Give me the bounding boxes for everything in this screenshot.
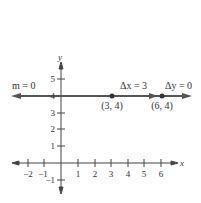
x-tick-label: 3 (109, 169, 114, 179)
y-axis (57, 62, 65, 194)
x-tick-label: −2 (23, 169, 33, 179)
delta-y-annotation: Δy = 0 (165, 80, 192, 91)
x-tick-label: 4 (126, 169, 131, 179)
y-tick-label: 2 (51, 124, 56, 134)
delta-x-arrow-icon (149, 93, 158, 99)
y-axis-up-arrow-icon (59, 62, 63, 69)
x-axis-right-arrow-icon (171, 161, 178, 165)
slope-annotation: m = 0 (12, 80, 35, 91)
horizontal-line (11, 93, 192, 99)
graph: y x −2 −1 1 2 3 4 5 6 5 4 3 2 1 −1 m = 0… (0, 0, 201, 203)
x-tick-labels: −2 −1 1 2 3 4 5 6 (23, 169, 164, 179)
line-right-arrow-icon (182, 93, 192, 99)
point-3-4 (110, 94, 115, 99)
x-tick-label: 2 (93, 169, 98, 179)
delta-x-annotation: Δx = 3 (120, 80, 147, 91)
x-axis-label: x (179, 158, 184, 168)
point-label-3-4: (3, 4) (101, 100, 123, 112)
point-label-6-4: (6, 4) (151, 100, 173, 112)
x-axis (12, 159, 178, 167)
y-tick-label: −1 (45, 175, 55, 185)
point-6-4 (160, 94, 165, 99)
x-tick-label: 1 (76, 169, 81, 179)
y-axis-label: y (57, 52, 62, 62)
x-tick-label: 6 (159, 169, 164, 179)
y-tick-label: 4 (51, 91, 56, 101)
line-left-arrow-icon (11, 93, 21, 99)
x-tick-label: 5 (142, 169, 147, 179)
y-tick-label: 3 (51, 108, 56, 118)
y-tick-label: 1 (51, 141, 56, 151)
y-axis-down-arrow-icon (59, 187, 63, 194)
y-tick-label: 5 (51, 74, 56, 84)
x-axis-left-arrow-icon (12, 161, 19, 165)
